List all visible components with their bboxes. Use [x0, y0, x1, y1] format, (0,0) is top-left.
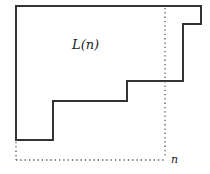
axis-label-n: n — [171, 153, 178, 166]
region-label: L(n) — [71, 37, 99, 52]
staircase-region-outline — [16, 6, 201, 140]
staircase-diagram: L(n) n — [0, 0, 210, 174]
